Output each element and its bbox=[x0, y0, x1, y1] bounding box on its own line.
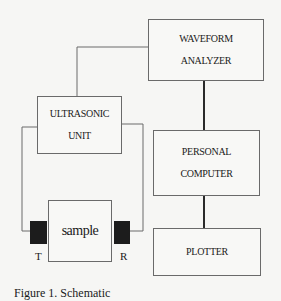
plotter-box: PLOTTER bbox=[153, 228, 261, 276]
ultrasonic-unit-label-1: ULTRASONIC bbox=[50, 103, 109, 125]
waveform-analyzer-label-1: WAVEFORM bbox=[179, 28, 233, 50]
figure-caption: Figure 1. Schematic bbox=[14, 286, 110, 301]
waveform-analyzer-box: WAVEFORM ANALYZER bbox=[148, 19, 264, 81]
plotter-label: PLOTTER bbox=[186, 241, 228, 263]
ultrasonic-unit-label-2: UNIT bbox=[68, 125, 91, 147]
sample-label: sample bbox=[62, 220, 99, 242]
transmitter-transducer bbox=[30, 221, 47, 244]
receiver-transducer bbox=[114, 221, 130, 244]
receiver-label: R bbox=[120, 250, 127, 262]
personal-computer-label-2: COMPUTER bbox=[180, 163, 232, 185]
personal-computer-label-1: PERSONAL bbox=[182, 141, 231, 163]
sample-box: sample bbox=[48, 200, 112, 262]
ultrasonic-unit-box: ULTRASONIC UNIT bbox=[37, 96, 122, 154]
transmitter-label: T bbox=[35, 250, 42, 262]
waveform-analyzer-label-2: ANALYZER bbox=[181, 50, 231, 72]
personal-computer-box: PERSONAL COMPUTER bbox=[153, 130, 260, 196]
